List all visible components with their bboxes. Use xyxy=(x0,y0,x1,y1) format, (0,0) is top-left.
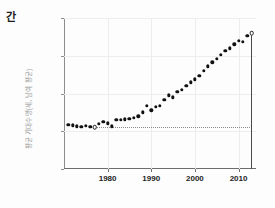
data-point xyxy=(80,125,83,128)
x-tick-label: 2000 xyxy=(175,174,215,183)
data-point xyxy=(158,104,161,107)
data-point xyxy=(67,123,70,126)
data-point xyxy=(136,114,139,117)
data-point xyxy=(141,111,144,114)
data-point xyxy=(115,118,118,121)
x-tick-mark xyxy=(239,169,240,172)
data-point xyxy=(237,39,240,42)
data-point xyxy=(132,116,135,119)
data-point xyxy=(232,43,235,46)
data-point xyxy=(128,117,131,120)
data-point xyxy=(180,88,183,91)
gridline-vertical xyxy=(195,18,196,169)
data-point xyxy=(145,104,148,107)
x-tick-mark xyxy=(195,169,196,172)
y-tick-mark xyxy=(61,94,64,95)
gridline-horizontal xyxy=(64,131,256,132)
x-axis-line xyxy=(64,168,256,169)
x-tick-mark xyxy=(151,169,152,172)
x-tick-label: 1990 xyxy=(131,174,171,183)
x-tick-label: 2010 xyxy=(219,174,259,183)
data-point xyxy=(202,69,205,72)
data-point xyxy=(123,118,126,121)
reference-point xyxy=(92,125,97,130)
chart-figure: 간 평균 기대수명(세, 남여 평균) 80604020019801990200… xyxy=(0,0,275,208)
data-point xyxy=(150,109,153,112)
gridline-horizontal xyxy=(64,94,256,95)
data-point xyxy=(206,64,209,67)
data-point xyxy=(184,84,187,87)
data-point xyxy=(97,122,100,125)
data-point xyxy=(75,125,78,128)
x-tick-mark xyxy=(108,169,109,172)
data-point xyxy=(102,120,105,123)
endpoint-marker xyxy=(249,31,254,36)
data-point xyxy=(228,46,231,49)
data-point xyxy=(71,124,74,127)
data-point xyxy=(189,80,192,83)
x-tick-label: 1980 xyxy=(88,174,128,183)
reference-line xyxy=(95,127,252,128)
data-point xyxy=(163,98,166,101)
plot-area: 8060402001980199020002010 xyxy=(64,18,256,169)
data-point xyxy=(224,49,227,52)
gridline-vertical xyxy=(151,18,152,169)
y-axis-title-wrap: 평균 기대수명(세, 남여 평균) xyxy=(22,34,36,184)
data-point xyxy=(198,74,201,77)
gridline-horizontal xyxy=(64,18,256,19)
gridline-horizontal xyxy=(64,56,256,57)
data-point xyxy=(154,105,157,108)
gridline-vertical xyxy=(108,18,109,169)
data-point xyxy=(246,34,249,37)
data-point xyxy=(171,96,174,99)
data-point xyxy=(119,118,122,121)
data-point xyxy=(106,121,109,124)
corner-label: 간 xyxy=(6,8,16,24)
data-point xyxy=(167,94,170,97)
data-point xyxy=(241,40,244,43)
y-tick-mark xyxy=(61,169,64,170)
data-point xyxy=(84,124,87,127)
y-tick-mark xyxy=(61,131,64,132)
y-tick-mark xyxy=(61,56,64,57)
y-tick-mark xyxy=(61,18,64,19)
data-point xyxy=(211,61,214,64)
y-axis-title: 평균 기대수명(세, 남여 평균) xyxy=(22,34,36,184)
data-point xyxy=(193,78,196,81)
vertical-line xyxy=(251,33,253,169)
data-point xyxy=(215,57,218,60)
